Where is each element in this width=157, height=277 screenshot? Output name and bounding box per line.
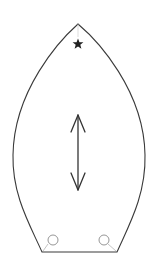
- diagram-canvas: [0, 0, 157, 277]
- right-hole-circle-icon: [99, 235, 109, 245]
- left-hole-circle-icon: [48, 235, 58, 245]
- outline-shape: [13, 24, 145, 252]
